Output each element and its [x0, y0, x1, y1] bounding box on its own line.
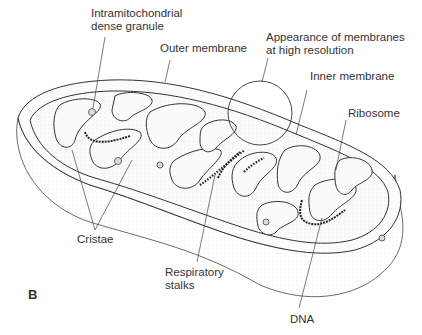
panel-label: B [28, 287, 37, 302]
label-line: Intramitochondrial [91, 7, 182, 20]
label-line: Appearance of membranes [266, 31, 405, 44]
label-line: at high resolution [266, 44, 405, 57]
label-line: stalks [165, 279, 224, 292]
label-line: Respiratory [165, 266, 224, 279]
label-outer-membrane: Outer membrane [160, 42, 247, 55]
label-appearance-of-membranes: Appearance of membranes at high resoluti… [266, 31, 405, 57]
label-intramitochondrial-granule: Intramitochondrial dense granule [91, 7, 182, 33]
label-cristae: Cristae [77, 233, 113, 246]
label-dna: DNA [290, 313, 314, 326]
label-inner-membrane: Inner membrane [310, 70, 394, 83]
label-respiratory-stalks: Respiratory stalks [165, 266, 224, 292]
label-line: dense granule [91, 20, 182, 33]
label-ribosome: Ribosome [348, 107, 400, 120]
